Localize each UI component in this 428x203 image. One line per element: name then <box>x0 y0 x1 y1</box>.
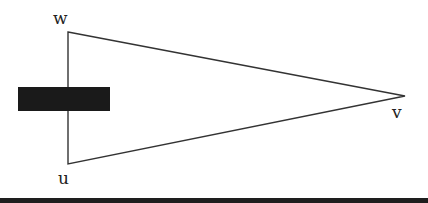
bottom-border-bar <box>0 198 428 203</box>
vertex-label-w: w <box>53 10 68 27</box>
triangle-diagram: w v u <box>0 0 428 203</box>
vertex-label-v: v <box>392 104 402 121</box>
vertex-label-u: u <box>58 170 69 187</box>
redaction-box <box>18 87 110 111</box>
triangle-uvw <box>68 32 405 164</box>
